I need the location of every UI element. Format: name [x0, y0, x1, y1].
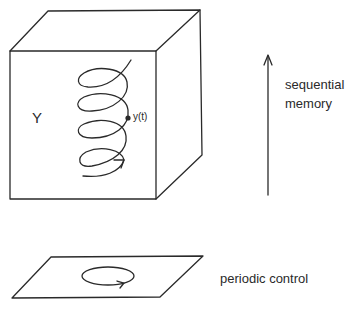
control-plane-label: periodic control — [220, 271, 308, 286]
memory-axis-label-line1: sequential — [285, 75, 344, 94]
trajectory-point-label: y(t) — [133, 111, 147, 122]
helix-arrowhead-icon — [114, 160, 124, 168]
diagram-canvas: Y y(t) sequential memory periodic contro… — [0, 0, 354, 309]
periodic-orbit — [82, 267, 134, 285]
memory-axis-label: sequential memory — [285, 75, 344, 113]
memory-axis-label-line2: memory — [285, 94, 344, 113]
state-space-label: Y — [32, 109, 42, 126]
state-space-cube — [10, 10, 202, 199]
trajectory-point — [125, 115, 130, 120]
control-plane — [12, 256, 203, 298]
diagram-drawing — [0, 0, 354, 309]
helix-trajectory — [78, 60, 131, 176]
